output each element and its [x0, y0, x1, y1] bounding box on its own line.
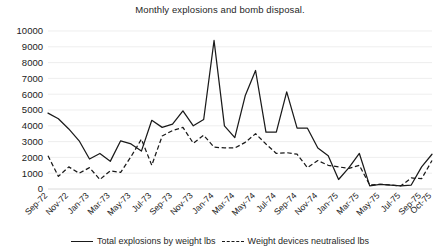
- y-axis-tick-label: 3000: [22, 136, 43, 147]
- legend-item-weight-neutralised: Weight devices neutralised lbs: [222, 236, 369, 246]
- series-line-weight-neutralised: [48, 127, 432, 185]
- y-axis-tick-label: 6000: [22, 89, 43, 100]
- x-axis-tick-label: May-73: [105, 190, 132, 217]
- x-axis-tick-labels: Sep-72Nov-72Jan-73Mar-73May-73Jul-73Sep-…: [23, 190, 434, 217]
- legend-label-total-explosions: Total explosions by weight lbs: [97, 236, 216, 246]
- y-axis-tick-label: 8000: [22, 57, 43, 68]
- legend-label-weight-neutralised: Weight devices neutralised lbs: [248, 236, 369, 246]
- y-axis-tick-labels: 1000090008000700060005000400030002000100…: [17, 25, 43, 194]
- y-axis-tick-label: 9000: [22, 41, 43, 52]
- legend-swatch-dashed-icon: [222, 241, 244, 242]
- y-axis-tick-label: 4000: [22, 120, 43, 131]
- chart-container: Monthly explosions and bomb disposal. 10…: [0, 0, 440, 250]
- x-axis-tick-label: May-74: [230, 190, 257, 217]
- gridlines: [48, 31, 432, 189]
- chart-legend: Total explosions by weight lbs Weight de…: [0, 236, 440, 246]
- y-axis-tick-label: 5000: [22, 104, 43, 115]
- y-axis-tick-label: 1000: [22, 168, 43, 179]
- y-axis-tick-label: 7000: [22, 73, 43, 84]
- x-axis-tick-label: Nov-74: [293, 190, 320, 217]
- legend-item-total-explosions: Total explosions by weight lbs: [71, 236, 216, 246]
- x-axis-tick-label: Nov-73: [168, 190, 195, 217]
- y-axis-tick-label: 2000: [22, 152, 43, 163]
- x-axis-tick-label: Nov-72: [44, 190, 71, 217]
- y-axis-tick-label: 10000: [17, 25, 43, 36]
- legend-swatch-solid-icon: [71, 241, 93, 242]
- x-axis-tick-label: May-75: [354, 190, 381, 217]
- line-chart-plot: 1000090008000700060005000400030002000100…: [0, 0, 440, 250]
